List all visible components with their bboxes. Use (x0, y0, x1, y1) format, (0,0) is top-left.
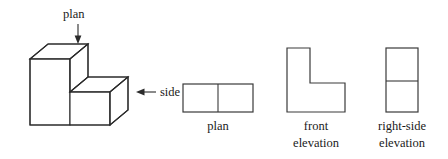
orthographic-projection-figure: plan side plan (0, 0, 448, 159)
solid-step-front-face (70, 92, 110, 125)
view-right-side-elevation-caption-line1: right-side (378, 119, 426, 133)
solid-front-left-face (30, 59, 70, 125)
view-front-elevation-caption-line1: front (304, 119, 329, 133)
view-plan-caption-line1: plan (207, 119, 229, 133)
plan-direction-arrow (75, 24, 82, 44)
view-right-side-elevation: right-side elevation (378, 48, 426, 150)
plan-direction-label: plan (63, 7, 85, 21)
side-direction-arrow (136, 89, 156, 96)
view-plan: plan (183, 84, 253, 133)
isometric-stepped-solid (30, 44, 128, 125)
view-right-side-elevation-caption-line2: elevation (379, 136, 426, 150)
view-front-elevation-caption-line2: elevation (293, 136, 340, 150)
view-front-elevation: front elevation (287, 48, 345, 150)
side-direction-label: side (160, 85, 181, 99)
